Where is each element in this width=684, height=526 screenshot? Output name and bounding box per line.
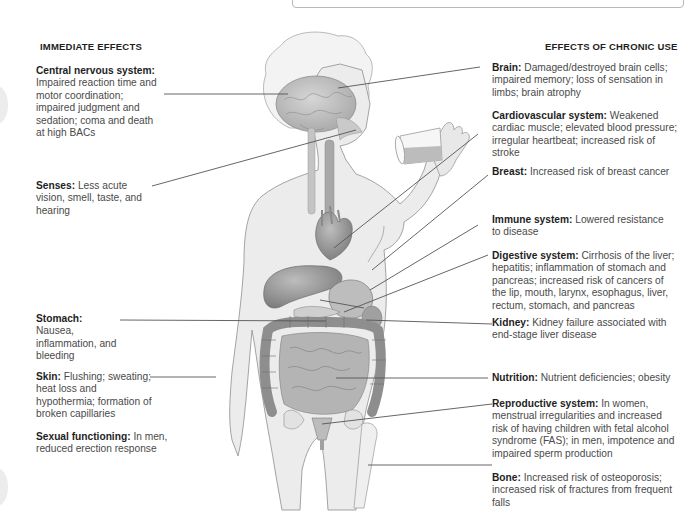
- effect-term: Central nervous system:: [36, 65, 155, 76]
- effect-description: Nutrient deficiencies; obesity: [541, 372, 671, 383]
- effect-description: Impaired reaction time and motor coordin…: [36, 77, 157, 138]
- small-intestine-icon: [279, 333, 369, 415]
- effect-senses: Senses: Less acute vision, smell, taste,…: [36, 180, 158, 217]
- effect-term: Cardiovascular system:: [492, 110, 607, 121]
- effect-term: Immune system:: [492, 214, 572, 225]
- effect-term: Breast:: [492, 166, 527, 177]
- chronic-use-heading: EFFECTS OF CHRONIC USE: [545, 41, 678, 52]
- effect-breast: Breast: Increased risk of breast cancer: [492, 166, 682, 178]
- effect-term: Senses:: [36, 180, 75, 191]
- effect-term: Digestive system:: [492, 250, 579, 261]
- effect-nutrition: Nutrition: Nutrient deficiencies; obesit…: [492, 372, 682, 384]
- effect-skin: Skin: Flushing; sweating; heat loss and …: [36, 371, 158, 421]
- effect-cardiovascular-system: Cardiovascular system: Weakened cardiac …: [492, 110, 682, 160]
- effect-central-nervous-system: Central nervous system: Impaired reactio…: [36, 65, 164, 139]
- effect-term: Sexual functioning:: [36, 431, 131, 442]
- effect-term: Bone:: [492, 472, 521, 483]
- effect-digestive-system: Digestive system: Cirrhosis of the liver…: [492, 250, 678, 312]
- effect-term: Stomach:: [36, 313, 82, 324]
- effect-term: Brain:: [492, 62, 521, 73]
- effect-description: Nausea, inflammation, and bleeding: [36, 325, 116, 361]
- effect-term: Kidney:: [492, 317, 529, 328]
- effect-stomach: Stomach: Nausea, inflammation, and bleed…: [36, 313, 122, 363]
- effect-term: Reproductive system:: [492, 398, 598, 409]
- immediate-effects-heading: IMMEDIATE EFFECTS: [40, 41, 142, 52]
- effect-term: Skin:: [36, 371, 61, 382]
- effect-reproductive-system: Reproductive system: In women, menstrual…: [492, 398, 678, 460]
- effect-bone: Bone: Increased risk of osteoporosis; in…: [492, 472, 678, 509]
- effect-sexual-functioning: Sexual functioning: In men, reduced erec…: [36, 431, 170, 456]
- effect-description: Increased risk of breast cancer: [530, 166, 669, 177]
- glass-icon: [394, 128, 442, 164]
- effect-brain: Brain: Damaged/destroyed brain cells; im…: [492, 62, 672, 99]
- effect-kidney: Kidney: Kidney failure associated with e…: [492, 317, 672, 342]
- effect-immune-system: Immune system: Lowered resistance to dis…: [492, 214, 672, 239]
- alcohol-effects-diagram: IMMEDIATE EFFECTS Central nervous system…: [0, 0, 684, 526]
- effect-term: Nutrition:: [492, 372, 538, 383]
